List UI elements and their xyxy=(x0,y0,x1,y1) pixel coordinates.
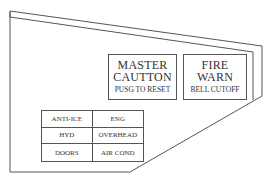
annunciator-hyd[interactable]: HYD xyxy=(42,128,93,145)
master-caution-line2: CAUTTON xyxy=(113,71,172,83)
fire-warn-button[interactable]: FIRE WARN BELL CUTOFF xyxy=(183,54,247,100)
annunciator-overhead[interactable]: OVERHEAD xyxy=(93,128,144,145)
fire-warn-subtext: BELL CUTOFF xyxy=(191,85,240,95)
annunciator-air-cond[interactable]: AIR COND xyxy=(93,144,144,161)
annunciator-eng[interactable]: ENG xyxy=(93,111,144,128)
master-caution-button[interactable]: MASTER CAUTTON PUSG TO RESET xyxy=(108,54,177,100)
annunciator-panel: ANTI-ICE ENG HYD OVERHEAD DOORS AIR COND xyxy=(41,110,144,162)
panel-inner-top-line xyxy=(10,17,253,52)
fire-warn-line2: WARN xyxy=(197,71,233,83)
annunciator-doors[interactable]: DOORS xyxy=(42,144,93,161)
annunciator-anti-ice[interactable]: ANTI-ICE xyxy=(42,111,93,128)
master-caution-subtext: PUSG TO RESET xyxy=(115,85,171,95)
panel-outer-top-line xyxy=(10,11,262,46)
